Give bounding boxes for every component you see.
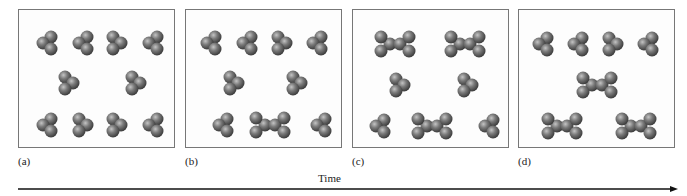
molecules-d [519,10,676,149]
panel-label-c: (c) [352,155,364,167]
panel-d [518,9,675,148]
time-axis-label: Time [318,172,341,184]
panel-a [18,9,175,148]
molecules-c [353,10,510,149]
panel-label-b: (b) [185,155,198,167]
panel-c [352,9,509,148]
molecules-b [186,10,343,149]
panel-b [185,9,342,148]
panel-label-d: (d) [518,155,531,167]
panel-label-a: (a) [18,155,30,167]
time-arrow-icon [18,185,678,195]
molecules-a [19,10,176,149]
